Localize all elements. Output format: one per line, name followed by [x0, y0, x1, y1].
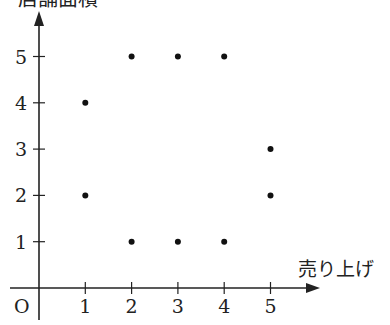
y-tick-label: 3 — [15, 138, 27, 160]
y-tick-label: 5 — [15, 46, 27, 68]
data-point — [129, 54, 135, 60]
data-point — [268, 146, 274, 152]
data-point — [82, 100, 88, 106]
y-tick-label: 1 — [15, 231, 27, 253]
x-tick-label: 3 — [172, 295, 184, 317]
x-tick-label: 1 — [79, 295, 91, 317]
x-axis-arrow-icon — [306, 283, 320, 293]
y-tick-label: 2 — [15, 184, 27, 206]
x-tick-label: 5 — [264, 295, 276, 317]
x-tick-label: 2 — [126, 295, 138, 317]
x-tick-label: 4 — [218, 295, 230, 317]
data-point — [129, 239, 135, 245]
y-tick-label: 4 — [15, 92, 27, 114]
data-point — [268, 192, 274, 198]
data-point — [221, 54, 227, 60]
y-axis-title: 店舗面積 — [18, 0, 98, 11]
data-point — [175, 239, 181, 245]
data-point — [175, 54, 181, 60]
scatter-chart: 店舗面積売り上げO1234512345 — [0, 0, 390, 325]
y-axis-arrow-icon — [34, 11, 44, 26]
data-point — [82, 192, 88, 198]
origin-label: O — [14, 295, 30, 317]
data-point — [221, 239, 227, 245]
x-axis-title: 売り上げ — [298, 258, 374, 280]
